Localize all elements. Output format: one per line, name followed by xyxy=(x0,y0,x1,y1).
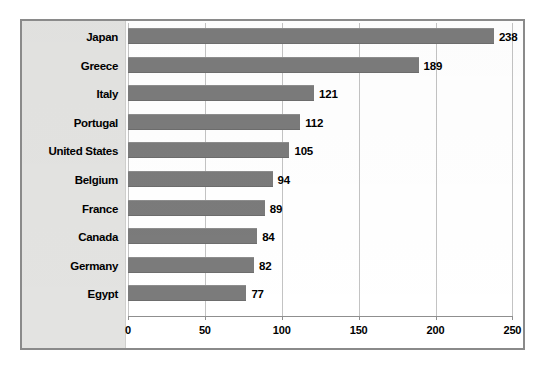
value-axis-tick-label: 100 xyxy=(273,324,291,336)
bar[interactable] xyxy=(128,285,246,301)
value-axis-tick-label: 50 xyxy=(199,324,211,336)
value-axis-tick-label: 200 xyxy=(427,324,445,336)
bar[interactable] xyxy=(128,200,265,216)
tick-mark-150 xyxy=(359,316,360,320)
value-axis-tick-label: 0 xyxy=(125,324,131,336)
gridline-250 xyxy=(512,23,513,316)
category-label[interactable]: Greece xyxy=(22,58,118,74)
bar[interactable] xyxy=(128,257,254,273)
bar-value-label: 189 xyxy=(424,58,443,74)
tick-mark-250 xyxy=(512,316,513,320)
bar[interactable] xyxy=(128,114,300,130)
bar-value-label: 89 xyxy=(270,201,282,217)
bar-value-label: 77 xyxy=(251,286,263,302)
category-label[interactable]: Belgium xyxy=(22,172,118,188)
bar[interactable] xyxy=(128,28,494,44)
bar-value-label: 238 xyxy=(499,29,518,45)
category-label[interactable]: Canada xyxy=(22,229,118,245)
bar[interactable] xyxy=(128,228,257,244)
bar-value-label: 112 xyxy=(305,115,323,131)
category-label[interactable]: Egypt xyxy=(22,286,118,302)
bar[interactable] xyxy=(128,57,419,73)
tick-mark-0 xyxy=(128,316,129,320)
tick-mark-200 xyxy=(436,316,437,320)
chart-frame: 2381891211121059489848277 05010015020025… xyxy=(20,19,525,350)
bar-value-label: 94 xyxy=(278,172,290,188)
bar-value-label: 105 xyxy=(294,143,313,159)
bar-value-label: 121 xyxy=(319,86,338,102)
bar-value-label: 84 xyxy=(262,229,274,245)
category-label[interactable]: France xyxy=(22,201,118,217)
category-label[interactable]: United States xyxy=(22,143,118,159)
tick-mark-100 xyxy=(282,316,283,320)
category-label[interactable]: Italy xyxy=(22,86,118,102)
bar[interactable] xyxy=(128,85,314,101)
value-axis-line xyxy=(128,316,512,317)
value-axis-tick-label: 150 xyxy=(350,324,368,336)
plot-area: 2381891211121059489848277 05010015020025… xyxy=(127,21,523,348)
bar[interactable] xyxy=(128,142,289,158)
value-axis-tick-label: 250 xyxy=(503,324,521,336)
tick-mark-50 xyxy=(205,316,206,320)
category-label[interactable]: Portugal xyxy=(22,115,118,131)
bar-value-label: 82 xyxy=(259,258,271,274)
bar[interactable] xyxy=(128,171,273,187)
category-label[interactable]: Germany xyxy=(22,258,118,274)
category-label[interactable]: Japan xyxy=(22,29,118,45)
